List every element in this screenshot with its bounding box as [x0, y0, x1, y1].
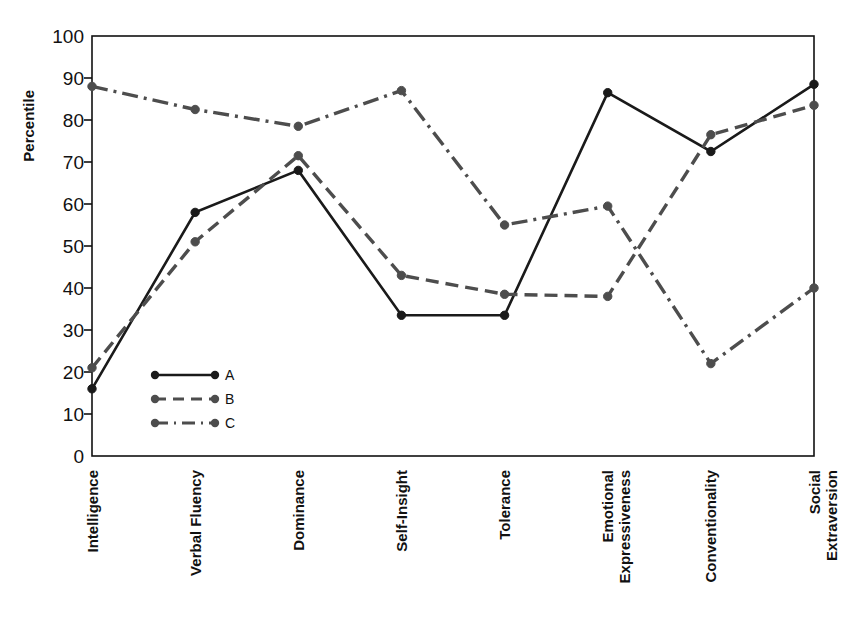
chart-legend: ABC — [151, 367, 235, 431]
series-lines — [92, 84, 814, 389]
data-point — [88, 385, 96, 393]
x-category-label: Conventionality — [702, 469, 719, 582]
data-point — [294, 122, 302, 130]
line-chart: Percentile 0102030405060708090100 Intell… — [0, 0, 842, 632]
x-category-label: Tolerance — [496, 470, 513, 540]
data-point — [191, 238, 199, 246]
y-axis-title-group: Percentile — [20, 90, 37, 162]
x-category-label: Emotional — [599, 470, 616, 543]
legend-marker — [211, 371, 219, 379]
y-axis-title: Percentile — [20, 90, 37, 162]
y-tick-label: 10 — [63, 404, 84, 425]
data-point — [294, 166, 302, 174]
legend-label-c: C — [225, 415, 235, 431]
data-point — [88, 364, 96, 372]
x-category-label: Intelligence — [84, 470, 101, 553]
data-point — [810, 80, 818, 88]
y-tick-label: 100 — [52, 26, 84, 47]
y-tick-label: 0 — [73, 446, 84, 467]
series-markers — [88, 80, 818, 393]
x-category-label: Self-Insight — [393, 470, 410, 552]
y-tick-label: 70 — [63, 152, 84, 173]
x-axis-category-labels: IntelligenceVerbal FluencyDominanceSelf-… — [84, 469, 840, 583]
y-tick-label: 20 — [63, 362, 84, 383]
legend-marker — [151, 371, 159, 379]
x-category-label: Extraversion — [823, 470, 840, 561]
data-point — [604, 292, 612, 300]
data-point — [707, 131, 715, 139]
x-category-label: Expressiveness — [616, 470, 633, 583]
data-point — [397, 271, 405, 279]
data-point — [810, 284, 818, 292]
data-point — [88, 82, 96, 90]
y-tick-label: 40 — [63, 278, 84, 299]
x-category-label: Social — [806, 470, 823, 514]
data-point — [707, 359, 715, 367]
y-tick-label: 30 — [63, 320, 84, 341]
data-point — [604, 89, 612, 97]
legend-marker — [151, 395, 159, 403]
data-point — [500, 290, 508, 298]
legend-label-b: B — [225, 391, 234, 407]
legend-marker — [211, 419, 219, 427]
legend-marker — [151, 419, 159, 427]
data-point — [707, 147, 715, 155]
data-point — [397, 86, 405, 94]
data-point — [191, 105, 199, 113]
y-tick-label: 90 — [63, 68, 84, 89]
chart-figure: Percentile 0102030405060708090100 Intell… — [0, 0, 842, 632]
series-line-b — [92, 105, 814, 368]
data-point — [191, 208, 199, 216]
data-point — [500, 311, 508, 319]
plot-frame — [92, 36, 814, 456]
legend-marker — [211, 395, 219, 403]
x-category-label: Verbal Fluency — [187, 469, 204, 576]
y-tick-label: 80 — [63, 110, 84, 131]
series-line-c — [92, 86, 814, 363]
legend-label-a: A — [225, 367, 235, 383]
y-tick-label: 50 — [63, 236, 84, 257]
y-axis-tick-labels: 0102030405060708090100 — [52, 26, 84, 467]
data-point — [500, 221, 508, 229]
x-category-label: Dominance — [290, 470, 307, 551]
data-point — [294, 152, 302, 160]
data-point — [810, 101, 818, 109]
data-point — [397, 311, 405, 319]
y-tick-label: 60 — [63, 194, 84, 215]
data-point — [604, 202, 612, 210]
